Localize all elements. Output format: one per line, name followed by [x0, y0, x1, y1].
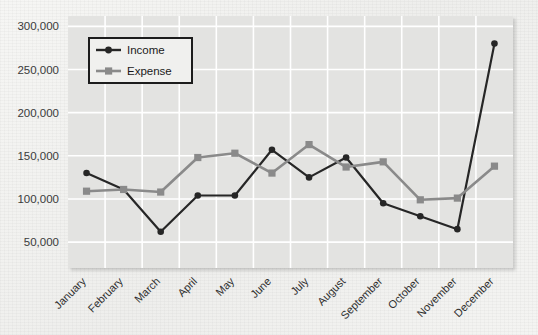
data-point[interactable]: [491, 163, 498, 170]
y-tick-label: 200,000: [17, 107, 59, 119]
data-point[interactable]: [269, 146, 276, 153]
data-point[interactable]: [83, 188, 90, 195]
y-tick-label: 50,000: [24, 236, 59, 248]
data-point[interactable]: [157, 228, 164, 235]
data-point[interactable]: [417, 196, 424, 203]
y-tick-label: 250,000: [17, 64, 59, 76]
x-tick-label: April: [175, 275, 199, 299]
y-tick-label: 150,000: [17, 150, 59, 162]
data-point[interactable]: [268, 169, 275, 176]
data-point[interactable]: [306, 174, 313, 181]
x-axis-tick-labels: JanuaryFebruaryMarchAprilMayJuneJulyAugu…: [52, 275, 496, 322]
legend-marker-expense: [105, 67, 112, 74]
x-tick-label: December: [452, 275, 497, 320]
x-tick-label: March: [132, 275, 162, 305]
x-tick-label: February: [85, 275, 125, 315]
legend-marker-income: [105, 47, 112, 54]
data-point[interactable]: [305, 141, 312, 148]
x-tick-label: May: [213, 275, 237, 299]
data-point[interactable]: [343, 154, 350, 161]
data-point[interactable]: [120, 186, 127, 193]
line-chart: 50,000100,000150,000200,000250,000300,00…: [0, 0, 538, 335]
data-point[interactable]: [491, 40, 498, 47]
x-tick-label: October: [386, 275, 422, 311]
data-point[interactable]: [157, 188, 164, 195]
data-point[interactable]: [417, 213, 424, 220]
data-point[interactable]: [380, 200, 387, 207]
x-tick-label: August: [315, 275, 348, 308]
y-tick-label: 100,000: [17, 193, 59, 205]
y-tick-label: 300,000: [17, 20, 59, 32]
data-point[interactable]: [454, 194, 461, 201]
x-tick-label: January: [52, 275, 89, 312]
x-tick-label: July: [288, 275, 311, 298]
chart-canvas: 50,000100,000150,000200,000250,000300,00…: [0, 0, 538, 335]
data-point[interactable]: [194, 154, 201, 161]
data-point[interactable]: [343, 163, 350, 170]
data-point[interactable]: [83, 170, 90, 177]
data-point[interactable]: [231, 150, 238, 157]
data-point[interactable]: [454, 226, 461, 233]
y-axis-tick-labels: 50,000100,000150,000200,000250,000300,00…: [17, 20, 59, 248]
legend-label-expense: Expense: [127, 65, 172, 77]
chart-legend: Income Expense: [89, 38, 192, 83]
x-tick-label: June: [248, 275, 273, 300]
data-point[interactable]: [232, 192, 239, 199]
data-point[interactable]: [380, 158, 387, 165]
legend-label-income: Income: [127, 44, 165, 56]
data-point[interactable]: [194, 192, 201, 199]
